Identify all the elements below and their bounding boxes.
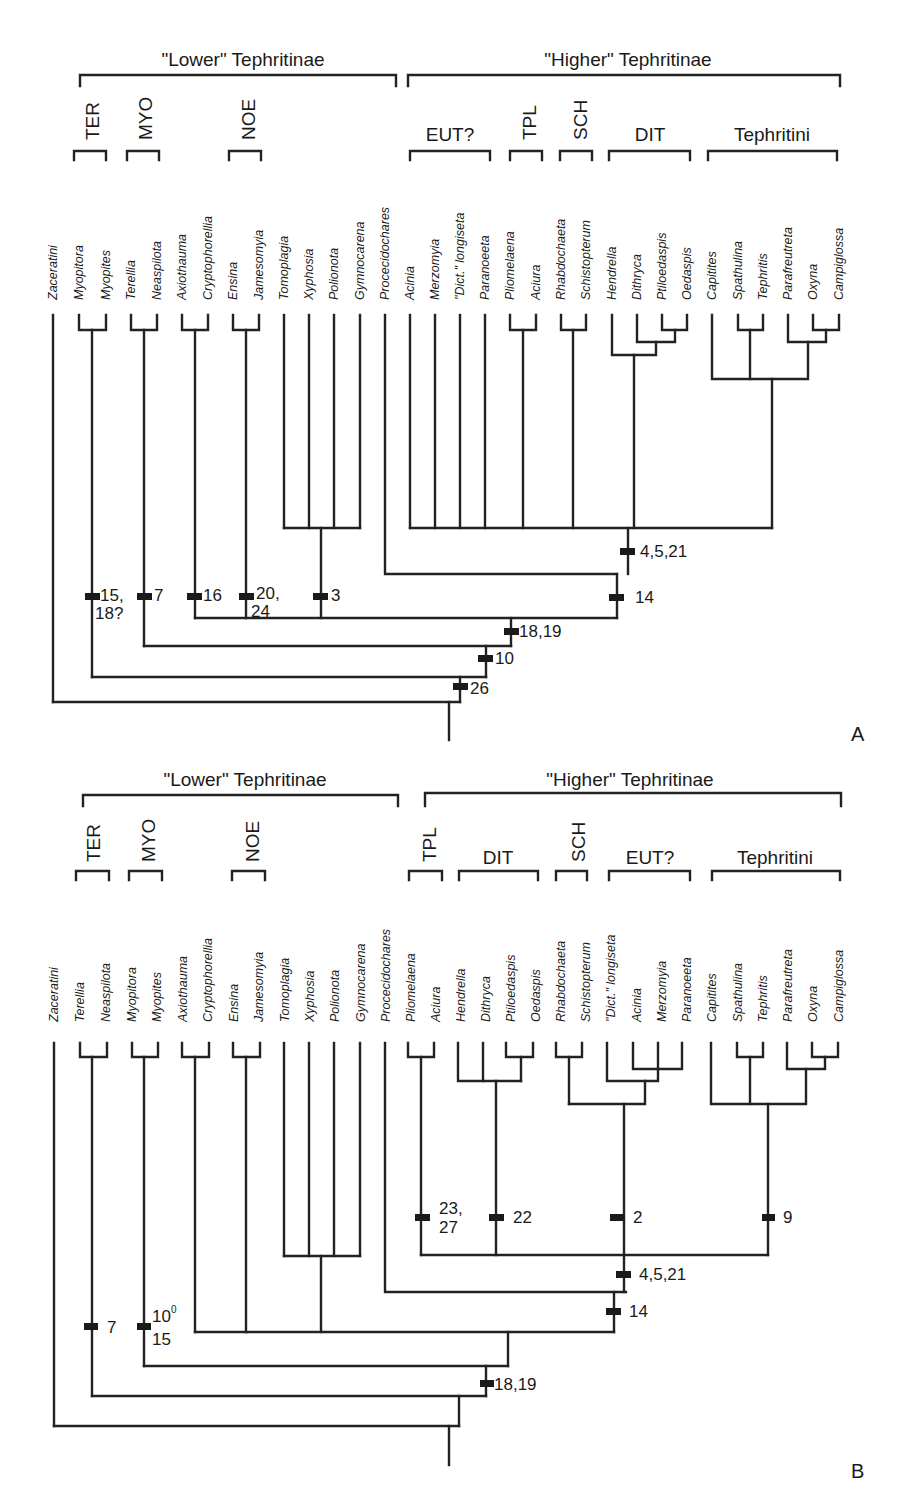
char-label: 14 (629, 1302, 648, 1321)
bracket-tephritini (712, 871, 840, 880)
char-label: 18? (95, 604, 123, 623)
group-label-lower: "Lower" Tephritinae (161, 49, 324, 70)
synapomorphy-mark (762, 1214, 775, 1221)
char-label: 3 (331, 586, 340, 605)
subgroup-tpl: TPL (519, 105, 540, 140)
subgroup-dit: DIT (635, 124, 666, 145)
taxon-label: Dithryca (479, 976, 493, 1022)
synapomorphy-mark (504, 628, 519, 635)
synapomorphy-mark (620, 548, 635, 555)
char-superscript: 0 (171, 1304, 177, 1315)
synapomorphy-mark (610, 1214, 625, 1221)
taxon-label: Schistopterum (579, 220, 593, 300)
taxon-label: Terellia (73, 982, 87, 1022)
taxon-label: Jamesomyia (252, 952, 266, 1023)
subgroup-ter: TER (82, 102, 103, 140)
panel-a: "Lower" Tephritinae "Higher" Tephritinae… (46, 49, 865, 745)
taxon-label: Merzomyia (655, 961, 669, 1022)
taxon-label: Terellia (124, 260, 138, 300)
taxon-label: Campiglossa (832, 950, 846, 1022)
taxon-label: Oxyna (806, 264, 820, 300)
char-label: 26 (470, 679, 489, 698)
taxa-labels-b: Zaceratini Terellia Neaspilota Myopitora… (47, 929, 846, 1023)
bracket-noe (229, 151, 261, 160)
subgroup-sch: SCH (570, 100, 591, 140)
synapomorphy-mark (609, 594, 624, 601)
taxon-label: Capitites (705, 251, 719, 300)
taxon-label: Pliomelaena (503, 231, 517, 300)
taxon-label: Cryptophorellia (201, 216, 215, 300)
taxon-label: Neaspilota (150, 241, 164, 300)
char-label: 15, (100, 586, 124, 605)
taxon-label: Tephritis (756, 253, 770, 300)
bracket-dit (609, 151, 690, 160)
taxon-label: Schistopterum (579, 942, 593, 1022)
synapomorphy-mark (313, 593, 328, 600)
taxon-label: "Dict." longiseta (453, 213, 467, 300)
group-label-higher: "Higher" Tephritinae (544, 49, 711, 70)
bracket-dit (459, 871, 538, 880)
subgroup-eut: EUT? (426, 124, 475, 145)
bracket-eut (609, 871, 690, 880)
synapomorphy-mark (187, 593, 202, 600)
char-label: 9 (783, 1208, 792, 1227)
taxon-label: Axiothauma (176, 956, 190, 1023)
taxon-label: Dithryca (630, 254, 644, 300)
bracket-sch (556, 871, 587, 880)
char-label: 24 (251, 602, 270, 621)
taxon-label: Acinia (403, 266, 417, 301)
taxon-label: Oedaspis (529, 969, 543, 1022)
bracket-higher (408, 75, 840, 86)
synapomorphy-mark (137, 1323, 151, 1330)
taxon-label: Jamesomyia (252, 230, 266, 301)
taxon-label: Polionota (327, 248, 341, 300)
char-label: 23, (439, 1199, 463, 1218)
panel-label-a: A (851, 723, 865, 745)
bracket-lower (83, 795, 398, 806)
panel-b: "Lower" Tephritinae "Higher" Tephritinae… (47, 769, 864, 1482)
taxon-label: Ptiloedaspis (504, 955, 518, 1022)
taxon-label: Aciura (429, 987, 443, 1023)
taxon-label: Tomoplagia (277, 236, 291, 300)
bracket-myo (127, 151, 159, 160)
char-label: 7 (107, 1318, 116, 1337)
tree-b-branches (54, 1043, 838, 1465)
synapomorphy-mark (85, 593, 100, 600)
taxon-label: Aciura (529, 265, 543, 301)
char-label: 27 (439, 1218, 458, 1237)
synapomorphy-mark (239, 593, 254, 600)
taxon-label: Myopites (99, 250, 113, 300)
taxon-label: Gymnocarena (354, 943, 368, 1022)
synapomorphy-mark (480, 1380, 494, 1387)
synapomorphy-mark (84, 1323, 98, 1330)
char-label: 16 (203, 586, 222, 605)
group-label-lower: "Lower" Tephritinae (163, 769, 326, 790)
bracket-tpl (409, 871, 442, 880)
subgroup-dit: DIT (483, 847, 514, 868)
taxon-label: Merzomyia (428, 239, 442, 300)
synapomorphy-mark (453, 683, 468, 690)
taxon-label: Cryptophorellia (201, 938, 215, 1022)
taxon-label: Xyphosia (302, 249, 316, 301)
panel-label-b: B (851, 1460, 864, 1482)
taxon-label: Capitites (705, 973, 719, 1022)
bracket-tephritini (708, 151, 837, 160)
bracket-lower (80, 75, 396, 86)
taxon-label: Parafreutreta (781, 227, 795, 300)
taxon-label: Polionota (328, 970, 342, 1022)
taxon-label: Hendrella (605, 246, 619, 300)
taxon-label: Paranoeeta (478, 235, 492, 300)
subgroup-eut: EUT? (626, 847, 675, 868)
char-label: 15 (152, 1330, 171, 1349)
taxon-label: Ptiloedaspis (655, 233, 669, 300)
char-label: 18,19 (494, 1375, 537, 1394)
subgroup-noe: NOE (242, 821, 263, 862)
taxon-label: Procecidochares (378, 207, 392, 300)
subgroup-noe: NOE (238, 99, 259, 140)
synapomorphy-mark (489, 1214, 504, 1221)
subgroup-myo: MYO (138, 819, 159, 862)
bracket-tpl (510, 151, 542, 160)
taxon-label: Myopites (150, 972, 164, 1022)
synapomorphy-mark (616, 1271, 631, 1278)
taxon-label: Campiglossa (832, 228, 846, 300)
